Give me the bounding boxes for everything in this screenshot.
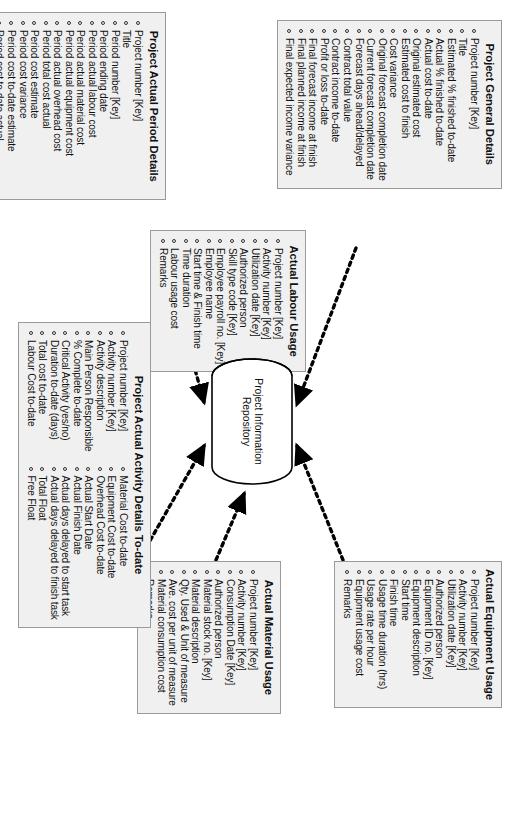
attribute-item: Original forecast completion date: [376, 28, 388, 181]
attribute-item: Project number [Key]: [117, 330, 129, 452]
attribute-item: Project number [Key]: [468, 569, 480, 689]
attribute-item: Material stock no. [Key]: [201, 569, 213, 706]
attribute-list: Project number [Key] Title Period number…: [0, 20, 144, 192]
attribute-item: Authorized person: [434, 569, 446, 689]
attribute-item: Activity number [Key]: [457, 569, 469, 689]
attribute-item: Project number [Key]: [247, 569, 259, 706]
attribute-list: Project number [Key] Activity number [Ke…: [341, 569, 480, 689]
project-information-repository[interactable]: Project Information Repository: [211, 358, 293, 485]
attribute-item: Period ending date: [98, 20, 110, 192]
attribute-item: Period total cost actual: [40, 20, 52, 192]
attribute-item: % Complete to-date: [71, 330, 83, 452]
attribute-item: Contract income to-date: [330, 28, 342, 181]
attribute-item: Ave. cost per unit of measure: [167, 569, 179, 706]
attribute-item: Total cost to-date: [37, 330, 49, 452]
attribute-item: Labour Cost to-date: [25, 330, 37, 452]
attribute-item: Project number [Key]: [468, 28, 480, 181]
attribute-item: Utilization date [Key]: [249, 238, 261, 364]
entity-title: Project Actual Activity Details To-date: [132, 330, 145, 620]
attribute-item: Profit or loss to-date: [318, 28, 330, 181]
attribute-item: Actual Start Date: [83, 466, 95, 620]
entity-project-general-details[interactable]: Project General Details Project number […: [277, 20, 502, 189]
attribute-item: Activity number [Key]: [261, 238, 273, 364]
attribute-item: Cost variance: [388, 28, 400, 181]
attribute-item: Free Float: [25, 466, 37, 620]
attribute-item: Period actual overhead cost: [52, 20, 64, 192]
attribute-item: Main Person Responsible: [83, 330, 95, 452]
attribute-item: Authorized person: [213, 569, 225, 706]
attribute-item: Duration to-date (days): [48, 330, 60, 452]
attribute-item: Remarks: [341, 569, 353, 689]
attribute-item: Usage time duration (hrs): [376, 569, 388, 689]
attribute-item: Period number [Key]: [109, 20, 121, 192]
attribute-item: Title: [457, 28, 469, 181]
attribute-item: Actual days delayed to finish task: [48, 466, 60, 620]
entity-project-actual-activity-details-to-date[interactable]: Project Actual Activity Details To-date …: [18, 322, 151, 628]
entity-title: Actual Labour Usage: [287, 238, 300, 364]
attribute-item: Finish time: [388, 569, 400, 689]
attribute-item: Final planned income at finish: [295, 28, 307, 181]
attribute-item: Activity number [Key]: [106, 330, 118, 452]
attribute-list: Project number [Key] Title Estimated % f…: [284, 28, 480, 181]
attribute-item: Actual cost to-date: [422, 28, 434, 181]
entity-project-actual-period-details[interactable]: Project Actual Period Details Project nu…: [0, 12, 166, 200]
attribute-item: Overhead Cost to-date: [94, 466, 106, 620]
entity-title: Project Actual Period Details: [147, 20, 160, 192]
cylinder-icon: [211, 358, 293, 485]
attribute-item: Time duration: [180, 238, 192, 364]
entity-actual-material-usage[interactable]: Actual Material Usage Project number [Ke…: [137, 561, 281, 714]
attribute-item: Employee payroll no. [Key]: [215, 238, 227, 364]
attribute-item: Period cost variance: [17, 20, 29, 192]
diagram-canvas: Project General Details Project number […: [0, 0, 511, 816]
attribute-list-column-2: Material Cost to-date Equipment Cost to-…: [25, 466, 129, 620]
entity-actual-labour-usage[interactable]: Actual Labour Usage Project number [Key]…: [150, 230, 306, 372]
attribute-item: Material consumption cost: [155, 569, 167, 706]
flow-equipment-to-repository: [297, 446, 343, 560]
attribute-item: Estimated cost to finish: [399, 28, 411, 181]
attribute-item: Material description: [190, 569, 202, 706]
attribute-item: Actual Finish Date: [71, 466, 83, 620]
attribute-item: Period actual material cost: [75, 20, 87, 192]
attribute-item: Equipment ID no. [Key]: [422, 569, 434, 689]
attribute-item: Period actual labour cost: [86, 20, 98, 192]
entity-title: Actual Equipment Usage: [483, 569, 496, 700]
attribute-item: Usage rate per hour: [365, 569, 377, 689]
attribute-item: Project number [Key]: [132, 20, 144, 192]
attribute-item: Activity description: [94, 330, 106, 452]
attribute-item: Actual % finished to-date: [434, 28, 446, 181]
attribute-item: Period cost estimate: [29, 20, 41, 192]
attribute-item: Original estimated cost: [411, 28, 423, 181]
attribute-item: Period cost to-date actual: [0, 20, 5, 192]
attribute-item: Material Cost to-date: [117, 466, 129, 620]
attribute-item: Critical Activity (yes/no): [60, 330, 72, 452]
attribute-item: Skill type code [Key]: [226, 238, 238, 364]
attribute-item: Forecast days ahead/delayed: [353, 28, 365, 181]
attribute-item: Remarks: [157, 238, 169, 364]
attribute-item: Equipment Cost to-date: [106, 466, 118, 620]
attribute-item: Final forecast income at finish: [307, 28, 319, 181]
attribute-item: Start time & Finish time: [192, 238, 204, 364]
attribute-item: Contract total value: [341, 28, 353, 181]
attribute-item: Start time: [399, 569, 411, 689]
attribute-item: Estimated % finished to-date: [445, 28, 457, 181]
attribute-item: Activity number [Key]: [236, 569, 248, 706]
attribute-list: Project number [Key] Activity number [Ke…: [157, 238, 284, 364]
attribute-item: Total Float: [37, 466, 49, 620]
attribute-item: Project number [Key]: [272, 238, 284, 364]
attribute-item: Equipment usage cost: [353, 569, 365, 689]
attribute-list: Project number [Key] Activity number [Ke…: [144, 569, 259, 706]
attribute-item: Actual days delayed to start task: [60, 466, 72, 620]
attribute-item: Equipment description: [411, 569, 423, 689]
entity-actual-equipment-usage[interactable]: Actual Equipment Usage Project number [K…: [334, 561, 502, 708]
attribute-list-column-1: Project number [Key] Activity number [Ke…: [25, 330, 129, 452]
attribute-item: Current forecast completion date: [365, 28, 377, 181]
attribute-item: Consumption Date [Key]: [224, 569, 236, 706]
attribute-item: Final expected income variance: [284, 28, 296, 181]
entity-title: Project General Details: [483, 28, 496, 181]
diagram-rotated-layer: Project General Details Project number […: [0, 0, 511, 816]
attribute-item: Title: [121, 20, 133, 192]
entity-title: Actual Material Usage: [262, 569, 275, 706]
attribute-item: Authorized person: [238, 238, 250, 364]
attribute-item: Employee name: [203, 238, 215, 364]
attribute-item: Utilization date [Key]: [445, 569, 457, 689]
